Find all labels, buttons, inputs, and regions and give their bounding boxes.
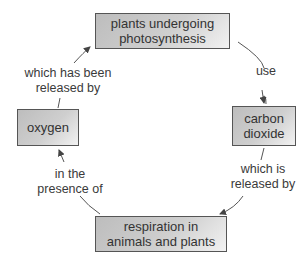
- edge-label-text: which is: [218, 162, 308, 177]
- edge-label-text: use: [246, 64, 286, 79]
- edge-label-text: which has been: [18, 66, 118, 81]
- edge-label-text: released by: [18, 81, 118, 96]
- node-label: dioxide: [243, 126, 284, 141]
- edge-label-text: presence of: [30, 182, 110, 197]
- arrow-co2-to-respiration: [261, 148, 264, 160]
- arrow-oxygen-to-plants: [58, 98, 60, 108]
- arrow-respiration-to-oxygen: [80, 196, 100, 214]
- edge-label-which-has-been-released-by: which has been released by: [18, 66, 118, 96]
- node-carbon-dioxide: carbon dioxide: [232, 106, 296, 146]
- node-label: respiration in: [124, 219, 198, 234]
- edge-label-in-the-presence-of: in the presence of: [30, 167, 110, 197]
- edge-label-which-is-released-by: which is released by: [218, 162, 308, 192]
- node-oxygen: oxygen: [17, 109, 79, 146]
- node-label: oxygen: [27, 120, 69, 135]
- node-plants-photosynthesis: plants undergoing photosynthesis: [95, 13, 230, 49]
- node-label: plants undergoing: [111, 16, 214, 31]
- node-label: carbon: [244, 111, 284, 126]
- node-label: photosynthesis: [119, 31, 206, 46]
- edge-label-use: use: [246, 64, 286, 79]
- edge-label-text: in the: [30, 167, 110, 182]
- edge-label-text: released by: [218, 177, 308, 192]
- node-respiration: respiration in animals and plants: [95, 216, 227, 252]
- node-label: animals and plants: [107, 234, 215, 249]
